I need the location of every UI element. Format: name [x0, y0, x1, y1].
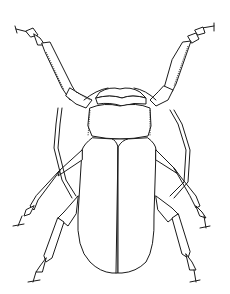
head: [84, 88, 156, 106]
beetle-illustration: [0, 0, 230, 294]
leg-hind-right: [156, 196, 200, 282]
antenna-left: [15, 26, 92, 108]
beetle-drawing: [0, 0, 230, 294]
leg-hind-left: [28, 196, 78, 282]
elytra: [78, 138, 156, 273]
antenna-right: [150, 23, 214, 106]
pronotum: [88, 104, 151, 139]
